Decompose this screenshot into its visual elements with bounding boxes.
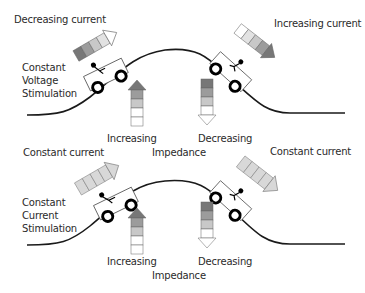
decreasing-impedance-arrow [198,202,216,248]
car-uphill [80,51,131,96]
mode-label-line-1: Constant [22,197,65,209]
impedance-increasing-label: Increasing [107,256,157,268]
mode-label-line-3: Stimulation [22,223,77,235]
constant-current-label-right: Constant current [270,146,351,158]
increasing-current-label: Increasing current [274,18,361,30]
decreasing-current-arrow [71,25,121,64]
impedance-label: Impedance [152,270,206,282]
car-downhill [206,174,257,224]
impedance-label: Impedance [152,147,206,159]
impedance-decreasing-label: Decreasing [198,256,252,268]
car-downhill [206,45,257,95]
panel-constant-voltage [27,21,345,126]
panel-constant-current [27,154,345,254]
hill-curve [27,181,345,245]
decreasing-current-label: Decreasing current [14,14,106,26]
mode-label-line-2: Voltage [22,75,58,87]
constant-current-arrow-left [73,157,124,198]
increasing-impedance-arrow [128,208,146,254]
mode-label-line-1: Constant [22,62,65,74]
constant-current-label-left: Constant current [23,147,104,159]
mode-label-line-2: Current [22,210,58,222]
decreasing-impedance-arrow [198,79,216,125]
impedance-increasing-label: Increasing [107,133,157,145]
hill-curve [27,49,345,115]
increasing-impedance-arrow [128,80,146,126]
impedance-decreasing-label: Decreasing [198,133,252,145]
mode-label-line-3: Stimulation [22,88,77,100]
